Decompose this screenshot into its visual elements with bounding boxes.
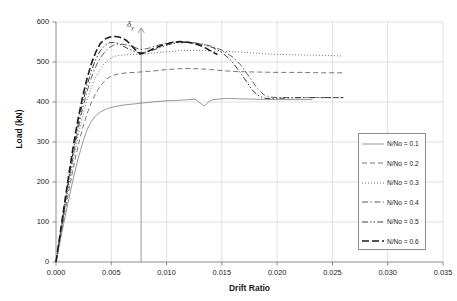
chart-legend: N/No = 0.1N/No = 0.2N/No = 0.3N/No = 0.4…: [358, 133, 426, 250]
legend-label: N/No = 0.5: [385, 218, 419, 225]
legend-label: N/No = 0.1: [385, 140, 419, 147]
legend-item-1[interactable]: N/No = 0.1: [359, 134, 425, 154]
legend-line-sample: [361, 217, 385, 227]
legend-item-3[interactable]: N/No = 0.3: [359, 173, 425, 193]
x-tick-label: 0.005: [89, 268, 133, 277]
y-tick-label: 400: [23, 97, 49, 106]
legend-line-sample: [361, 236, 385, 246]
series-line-5: [56, 42, 343, 262]
x-axis-title: Drift Ratio: [56, 283, 443, 293]
x-tick-label: 0.010: [145, 268, 189, 277]
y-tick-label: 500: [23, 57, 49, 66]
y-tick-label: 600: [23, 17, 49, 26]
legend-label: N/No = 0.4: [385, 199, 419, 206]
y-tick-label: 100: [23, 217, 49, 226]
legend-label: N/No = 0.2: [385, 160, 419, 167]
legend-line-sample: [361, 158, 385, 168]
x-tick-label: 0.015: [200, 268, 244, 277]
legend-label: N/No = 0.3: [385, 179, 419, 186]
series-line-1: [56, 98, 313, 262]
yield-drift-annotation: δy: [127, 19, 134, 31]
x-tick-label: 0.025: [310, 268, 354, 277]
legend-line-sample: [361, 178, 385, 188]
legend-item-5[interactable]: N/No = 0.5: [359, 212, 425, 232]
legend-label: N/No = 0.6: [385, 238, 419, 245]
series-line-3: [56, 50, 341, 262]
y-tick-label: 0: [23, 257, 49, 266]
x-tick-label: 0.030: [366, 268, 410, 277]
legend-item-4[interactable]: N/No = 0.4: [359, 193, 425, 213]
y-tick-label: 200: [23, 177, 49, 186]
x-tick-label: 0.000: [34, 268, 78, 277]
legend-line-sample: [361, 139, 385, 149]
series-line-6: [56, 36, 217, 262]
x-tick-label: 0.020: [255, 268, 299, 277]
series-line-4: [56, 42, 343, 262]
x-tick-label: 0.035: [421, 268, 457, 277]
y-tick-label: 300: [23, 137, 49, 146]
legend-line-sample: [361, 197, 385, 207]
chart-root: Load (kN) Drift Ratio 010020030040050060…: [0, 0, 457, 301]
legend-item-2[interactable]: N/No = 0.2: [359, 154, 425, 174]
legend-item-6[interactable]: N/No = 0.6: [359, 232, 425, 252]
delta-subscript: y: [131, 25, 134, 31]
